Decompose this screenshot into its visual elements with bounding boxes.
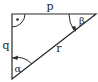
right-angle-arc [12, 14, 25, 27]
right-angle-dot [16, 18, 19, 21]
alpha-arrowhead-icon [12, 56, 18, 61]
side-label-q: q [2, 39, 9, 52]
side-label-p: p [46, 0, 53, 13]
right-triangle-diagram: p q r β α [0, 0, 98, 82]
side-label-r: r [56, 42, 62, 55]
angle-label-alpha: α [15, 63, 22, 74]
angle-label-beta: β [79, 15, 85, 26]
